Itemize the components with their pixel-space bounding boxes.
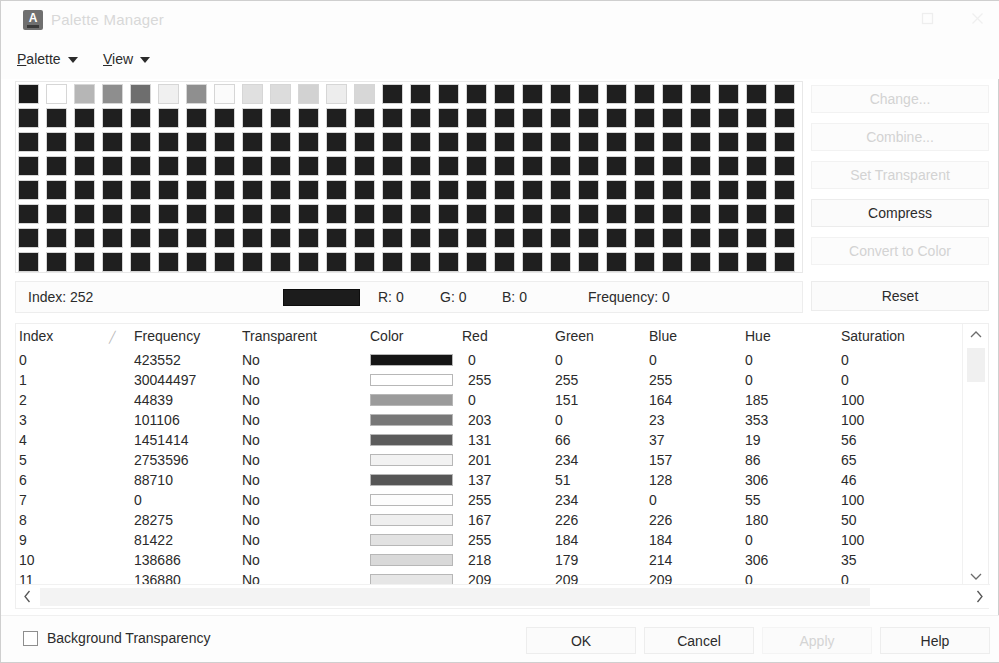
color-swatch[interactable]: [438, 132, 459, 152]
color-swatch[interactable]: [550, 228, 571, 248]
color-swatch[interactable]: [18, 180, 39, 200]
color-swatch[interactable]: [242, 132, 263, 152]
color-swatch[interactable]: [690, 180, 711, 200]
table-row[interactable]: 70No255234055100: [16, 490, 988, 510]
color-swatch[interactable]: [354, 228, 375, 248]
color-swatch[interactable]: [662, 132, 683, 152]
color-swatch[interactable]: [18, 84, 39, 104]
color-swatch[interactable]: [382, 228, 403, 248]
color-swatch[interactable]: [270, 180, 291, 200]
color-swatch[interactable]: [634, 180, 655, 200]
color-swatch[interactable]: [578, 84, 599, 104]
color-swatch[interactable]: [214, 132, 235, 152]
color-swatch[interactable]: [242, 108, 263, 128]
color-swatch[interactable]: [326, 228, 347, 248]
color-swatch[interactable]: [550, 132, 571, 152]
color-swatch[interactable]: [186, 156, 207, 176]
color-swatch[interactable]: [214, 252, 235, 272]
vertical-scrollbar-thumb[interactable]: [967, 348, 985, 382]
table-row[interactable]: 52753596No2012341578665: [16, 450, 988, 470]
color-swatch[interactable]: [662, 84, 683, 104]
color-swatch[interactable]: [214, 228, 235, 248]
color-swatch[interactable]: [242, 228, 263, 248]
color-swatch[interactable]: [690, 84, 711, 104]
color-swatch[interactable]: [382, 108, 403, 128]
color-swatch[interactable]: [522, 180, 543, 200]
color-swatch[interactable]: [102, 156, 123, 176]
color-swatch[interactable]: [606, 108, 627, 128]
color-swatch[interactable]: [18, 228, 39, 248]
color-swatch[interactable]: [298, 252, 319, 272]
color-swatch[interactable]: [102, 180, 123, 200]
color-swatch[interactable]: [214, 108, 235, 128]
table-row[interactable]: 10138686No21817921430635: [16, 550, 988, 570]
color-swatch[interactable]: [606, 84, 627, 104]
color-swatch[interactable]: [158, 132, 179, 152]
color-swatch[interactable]: [46, 180, 67, 200]
color-swatch[interactable]: [774, 204, 795, 224]
color-swatch[interactable]: [466, 228, 487, 248]
color-swatch[interactable]: [130, 228, 151, 248]
color-swatch[interactable]: [690, 228, 711, 248]
horizontal-scrollbar-thumb[interactable]: [40, 588, 870, 606]
table-row[interactable]: 0423552No00000: [16, 350, 988, 370]
table-row[interactable]: 244839No0151164185100: [16, 390, 988, 410]
chevron-down-icon[interactable]: [963, 566, 989, 586]
color-swatch[interactable]: [326, 180, 347, 200]
color-swatch[interactable]: [690, 108, 711, 128]
color-swatch[interactable]: [494, 252, 515, 272]
color-swatch[interactable]: [270, 84, 291, 104]
color-swatch[interactable]: [634, 84, 655, 104]
color-swatch[interactable]: [718, 84, 739, 104]
color-swatch[interactable]: [578, 108, 599, 128]
color-swatch[interactable]: [774, 228, 795, 248]
color-swatch[interactable]: [466, 84, 487, 104]
table-row[interactable]: 130044497No25525525500: [16, 370, 988, 390]
color-swatch[interactable]: [130, 84, 151, 104]
color-swatch[interactable]: [74, 108, 95, 128]
color-swatch[interactable]: [774, 180, 795, 200]
color-swatch[interactable]: [18, 252, 39, 272]
color-swatch[interactable]: [46, 132, 67, 152]
color-swatch[interactable]: [438, 84, 459, 104]
color-swatch[interactable]: [298, 204, 319, 224]
color-swatch[interactable]: [382, 132, 403, 152]
column-header-blue[interactable]: Blue: [649, 328, 745, 344]
column-header-index[interactable]: Index ╱: [16, 328, 134, 344]
color-swatch[interactable]: [466, 156, 487, 176]
color-swatch[interactable]: [494, 204, 515, 224]
color-swatch[interactable]: [298, 108, 319, 128]
color-swatch[interactable]: [102, 84, 123, 104]
color-swatch[interactable]: [578, 228, 599, 248]
color-swatch[interactable]: [354, 252, 375, 272]
color-swatch[interactable]: [494, 132, 515, 152]
color-swatch[interactable]: [74, 156, 95, 176]
color-swatch[interactable]: [550, 108, 571, 128]
color-swatch[interactable]: [606, 180, 627, 200]
color-swatch[interactable]: [746, 228, 767, 248]
close-icon[interactable]: [962, 5, 992, 31]
column-header-hue[interactable]: Hue: [745, 328, 841, 344]
color-swatch[interactable]: [74, 204, 95, 224]
help-button[interactable]: Help: [880, 627, 990, 654]
column-header-green[interactable]: Green: [555, 328, 649, 344]
chevron-right-icon[interactable]: [968, 585, 990, 608]
table-horizontal-scrollbar[interactable]: [16, 584, 990, 608]
color-swatch[interactable]: [662, 204, 683, 224]
color-swatch[interactable]: [298, 228, 319, 248]
color-swatch[interactable]: [74, 228, 95, 248]
color-swatch[interactable]: [270, 156, 291, 176]
color-swatch[interactable]: [410, 156, 431, 176]
color-swatch[interactable]: [550, 156, 571, 176]
color-swatch[interactable]: [606, 204, 627, 224]
color-swatch[interactable]: [102, 132, 123, 152]
color-swatch[interactable]: [242, 204, 263, 224]
color-swatch[interactable]: [410, 108, 431, 128]
color-swatch[interactable]: [578, 132, 599, 152]
color-swatch[interactable]: [354, 204, 375, 224]
color-swatch[interactable]: [270, 228, 291, 248]
color-swatch[interactable]: [774, 132, 795, 152]
color-swatch[interactable]: [550, 84, 571, 104]
menu-palette[interactable]: Palette: [15, 49, 80, 69]
color-swatch[interactable]: [634, 156, 655, 176]
